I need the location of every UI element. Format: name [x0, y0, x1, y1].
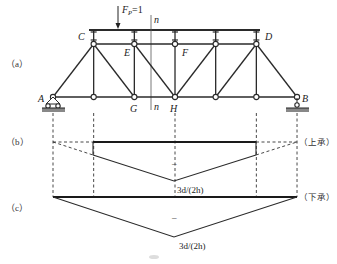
end-diagonal-left: [53, 44, 94, 97]
pin-B-lower: [295, 103, 299, 107]
node-label-F: F: [181, 47, 189, 58]
panel-label-b: （b）: [6, 137, 29, 147]
load-arrow: FP=1: [116, 4, 143, 29]
pin-support-A: [46, 97, 60, 104]
ground-hatch-B: [286, 108, 309, 112]
bottom-node: [172, 94, 177, 99]
truss-members: [53, 44, 297, 97]
il-b-peak-value: 3d/(2h): [177, 185, 204, 195]
node-label-D: D: [264, 31, 273, 42]
projection-lines: [53, 113, 297, 197]
load-arrow-head: [116, 23, 121, 29]
node-label-B: B: [302, 93, 308, 104]
il-c-sign: –: [171, 212, 177, 222]
il-c-load-case: （下承）: [299, 192, 335, 202]
support-A: [42, 97, 65, 112]
load-label: FP=1: [121, 4, 143, 16]
deck-posts: [91, 30, 260, 41]
ground-hatch-A: [42, 108, 65, 112]
il-b-load-case: （上承）: [299, 137, 335, 147]
bottom-node: [91, 94, 96, 99]
truss-influence-diagram: （a） FP=1 n n A: [0, 0, 337, 264]
diagonal-member: [134, 44, 175, 97]
il-c-peak-value: 3d/(2h): [179, 241, 206, 251]
top-node: [132, 41, 137, 46]
node-label-E: E: [123, 47, 130, 58]
bottom-node: [213, 94, 218, 99]
section-label-bottom: n: [154, 101, 159, 112]
scan-artifact: [149, 255, 159, 259]
il-b-slope-dash-left: [53, 142, 93, 155]
node-label-A: A: [37, 93, 45, 104]
il-b-slope-dash-right: [256, 142, 297, 155]
panel-label-c: （c）: [6, 203, 28, 213]
node-label-G: G: [130, 103, 137, 114]
section-label-top: n: [154, 14, 159, 25]
truss-panel-a: （a） FP=1 n n A: [6, 4, 309, 114]
panel-label-a: （a）: [6, 59, 28, 69]
il-b-sign: –: [171, 158, 177, 168]
influence-line-c: （c） – 3d/(2h) （下承）: [6, 192, 335, 251]
top-node: [254, 41, 259, 46]
top-node: [91, 41, 96, 46]
node-label-H: H: [169, 103, 178, 114]
influence-line-b: （b） – 3d/(2h) （上承）: [6, 137, 335, 195]
bottom-node: [254, 94, 259, 99]
node-label-C: C: [78, 31, 85, 42]
diagonal-member: [216, 44, 257, 97]
bottom-node: [132, 94, 137, 99]
top-node: [213, 41, 218, 46]
top-node: [172, 41, 177, 46]
end-diagonal-right: [256, 44, 297, 97]
